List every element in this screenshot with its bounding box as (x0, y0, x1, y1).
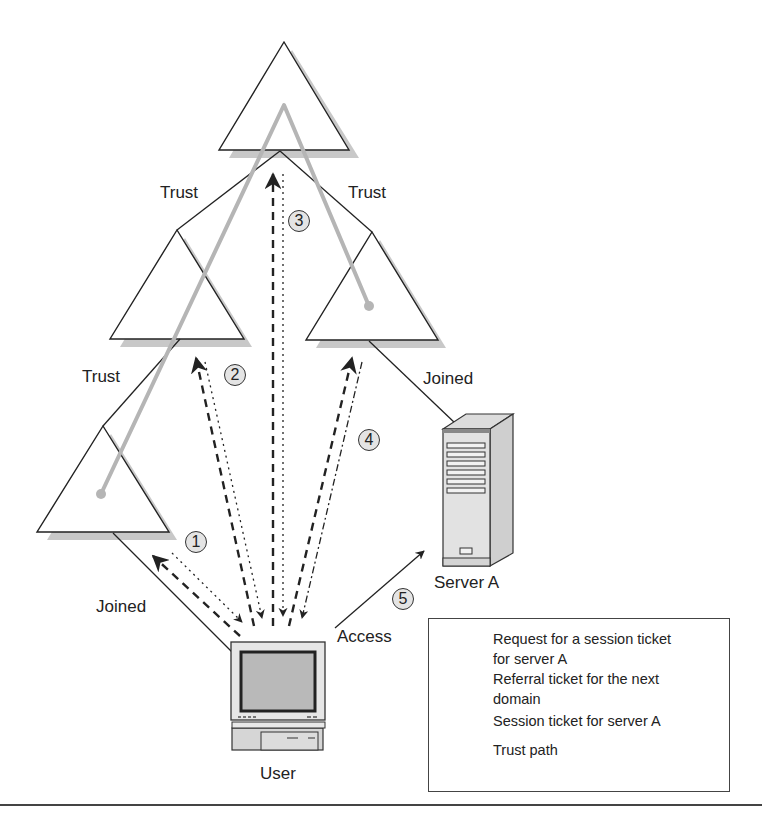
step2-request-arrow (196, 358, 254, 626)
server-a-icon (443, 414, 513, 566)
step-3-badge: 3 (288, 210, 310, 232)
user-computer-icon (231, 642, 325, 750)
domain-triangles (37, 42, 438, 532)
trust-label-top-left: Trust (160, 184, 198, 201)
right-child-domain-triangle (306, 232, 438, 340)
trust-label-mid-left: Trust (82, 368, 120, 385)
step-4-badge: 4 (358, 429, 380, 451)
leaf-domain-triangle (37, 426, 169, 532)
step4-session-arrow (302, 362, 362, 618)
root-domain-triangle (219, 42, 349, 150)
step-5-badge: 5 (392, 588, 414, 610)
step-1-badge: 1 (185, 531, 207, 553)
legend-item-trust-path: Trust path (493, 740, 558, 760)
bottom-rule (0, 804, 762, 806)
access-line (335, 551, 424, 628)
joined-label-left: Joined (96, 598, 146, 615)
step2-referral-arrow (205, 362, 262, 618)
legend-item-referral: Referral ticket for the next domain (493, 669, 659, 709)
step1-referral-arrow (172, 553, 242, 622)
legend-item-session: Session ticket for server A (493, 711, 661, 731)
access-label: Access (337, 628, 392, 645)
step1-request-arrow (153, 556, 240, 636)
trust-label-top-right: Trust (348, 184, 386, 201)
trust-path-end-dot (364, 301, 374, 311)
joined-left-line (113, 533, 232, 652)
trust-path-start-dot (96, 489, 106, 499)
trust-connectors (103, 151, 456, 652)
legend-box: Request for a session ticket for server … (428, 618, 730, 792)
joined-label-right: Joined (423, 370, 473, 387)
step-2-badge: 2 (224, 364, 246, 386)
user-label: User (260, 765, 296, 782)
server-a-label: Server A (434, 574, 499, 591)
legend-item-request: Request for a session ticket for server … (493, 629, 671, 669)
left-child-domain-triangle (110, 230, 244, 339)
step4-request-arrow (289, 358, 352, 626)
